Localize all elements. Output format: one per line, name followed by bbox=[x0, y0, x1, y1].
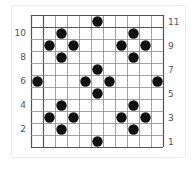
dot-marker bbox=[140, 40, 150, 50]
dot-marker bbox=[104, 76, 114, 86]
dot-marker bbox=[44, 112, 54, 122]
dot-marker bbox=[92, 88, 102, 98]
row-label-right-3: 3 bbox=[168, 113, 182, 123]
dot-grid bbox=[31, 15, 163, 147]
dot-marker bbox=[32, 76, 42, 86]
row-label-left-4: 4 bbox=[12, 100, 26, 110]
row-label-right-1: 1 bbox=[168, 137, 182, 147]
row-label-right-11: 11 bbox=[168, 17, 182, 27]
dot-marker bbox=[44, 40, 54, 50]
row-label-right-9: 9 bbox=[168, 41, 182, 51]
dot-marker bbox=[68, 40, 78, 50]
row-label-left-10: 10 bbox=[12, 28, 26, 38]
dot-marker bbox=[92, 136, 102, 146]
dot-marker bbox=[56, 28, 66, 38]
dot-marker bbox=[116, 112, 126, 122]
dot-marker bbox=[128, 124, 138, 134]
dot-marker bbox=[128, 100, 138, 110]
dot-marker bbox=[128, 52, 138, 62]
row-label-left-2: 2 bbox=[12, 124, 26, 134]
dot-marker bbox=[152, 76, 162, 86]
grid-lines bbox=[31, 15, 163, 147]
row-label-left-6: 6 bbox=[12, 76, 26, 86]
dot-marker bbox=[140, 112, 150, 122]
dot-marker bbox=[56, 52, 66, 62]
row-label-right-7: 7 bbox=[168, 65, 182, 75]
row-label-left-8: 8 bbox=[12, 52, 26, 62]
dot-marker bbox=[68, 112, 78, 122]
dot-marker bbox=[128, 28, 138, 38]
dot-marker bbox=[56, 100, 66, 110]
dot-marker bbox=[92, 16, 102, 26]
dot-marker bbox=[92, 64, 102, 74]
row-label-right-5: 5 bbox=[168, 89, 182, 99]
dot-marker bbox=[56, 124, 66, 134]
dot-marker bbox=[80, 76, 90, 86]
dot-marker bbox=[116, 40, 126, 50]
